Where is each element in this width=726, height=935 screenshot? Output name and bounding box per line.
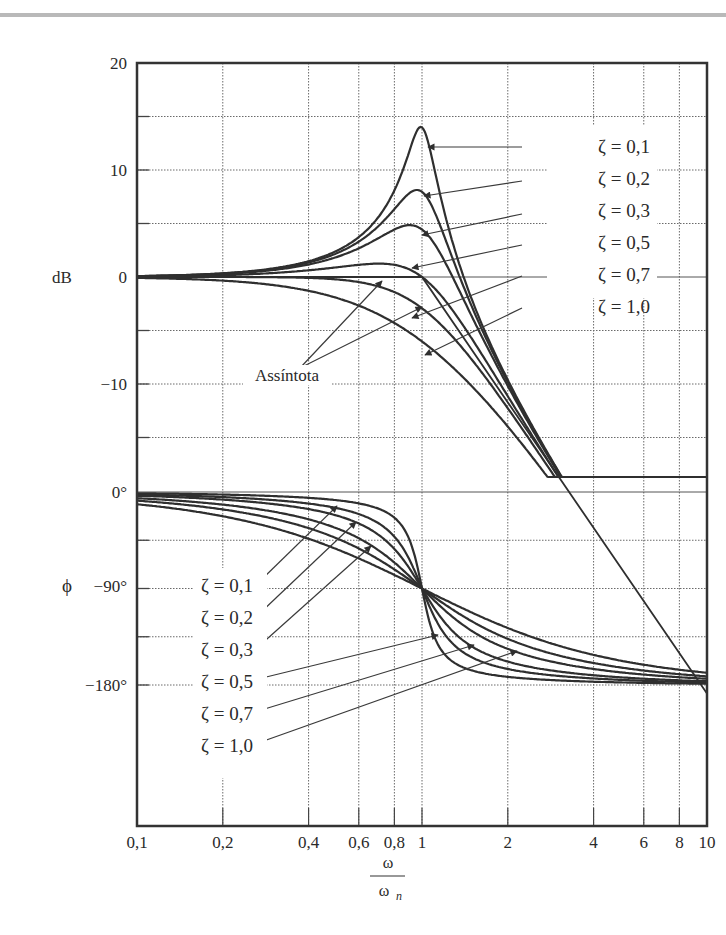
x-label-denominator: ω [379, 882, 390, 899]
phase-label-zeta-0.3: ζ = 0,3 [201, 639, 253, 660]
mag-axis-label: dB [52, 268, 72, 287]
annotation-arrow [258, 635, 438, 679]
phase-label-zeta-1.0: ζ = 1,0 [201, 735, 253, 756]
mag-tick-minus10: −10 [100, 375, 127, 394]
mag-label-zeta-0.1: ζ = 0,1 [598, 136, 650, 157]
x-label-subscript: n [396, 889, 402, 903]
annotation-arrow [300, 281, 382, 368]
x-tick-label: 0,8 [384, 833, 405, 852]
mag-tick-20: 20 [110, 54, 127, 73]
mag-label-zeta-1.0: ζ = 1,0 [598, 296, 650, 317]
x-tick-label: 1 [418, 833, 427, 852]
bode-chart: 20 10 0 −10 dB 0° −90° −180° ϕ 0,10,20,4… [0, 0, 726, 935]
x-tick-label: 0,1 [126, 833, 147, 852]
mag-label-zeta-0.3: ζ = 0,3 [598, 200, 650, 221]
x-tick-label: 0,2 [212, 833, 233, 852]
mag-tick-0: 0 [119, 268, 128, 287]
x-tick-label: 2 [504, 833, 513, 852]
phase-tick-0: 0° [112, 483, 127, 502]
phase-label-zeta-0.2: ζ = 0,2 [201, 607, 253, 628]
mag-label-zeta-0.2: ζ = 0,2 [598, 168, 650, 189]
x-tick-label: 0,6 [348, 833, 369, 852]
phase-tick-minus180: −180° [85, 676, 127, 695]
mag-label-zeta-0.7: ζ = 0,7 [598, 264, 650, 285]
x-tick-label: 0,4 [298, 833, 320, 852]
annotation-arrow [300, 307, 422, 368]
mag-label-zeta-0.5: ζ = 0,5 [598, 232, 650, 253]
x-tick-labels: 0,10,20,40,60,81246810 [126, 833, 715, 852]
phase-label-zeta-0.7: ζ = 0,7 [201, 703, 253, 724]
phase-tick-minus90: −90° [94, 577, 127, 596]
x-tick-label: 8 [675, 833, 684, 852]
x-tick-label: 4 [589, 833, 598, 852]
annotation-arrow [412, 245, 522, 268]
x-label-numerator: ω [383, 854, 394, 871]
annotation-arrows [258, 147, 522, 743]
phase-label-zeta-0.1: ζ = 0,1 [201, 575, 253, 596]
annotation-arrow [258, 651, 517, 743]
asymptote-label: Assíntota [255, 366, 320, 385]
mag-tick-10: 10 [110, 161, 127, 180]
phase-label-zeta-0.5: ζ = 0,5 [201, 671, 253, 692]
x-tick-label: 10 [699, 833, 716, 852]
x-tick-label: 6 [640, 833, 649, 852]
phase-axis-label: ϕ [62, 575, 72, 596]
